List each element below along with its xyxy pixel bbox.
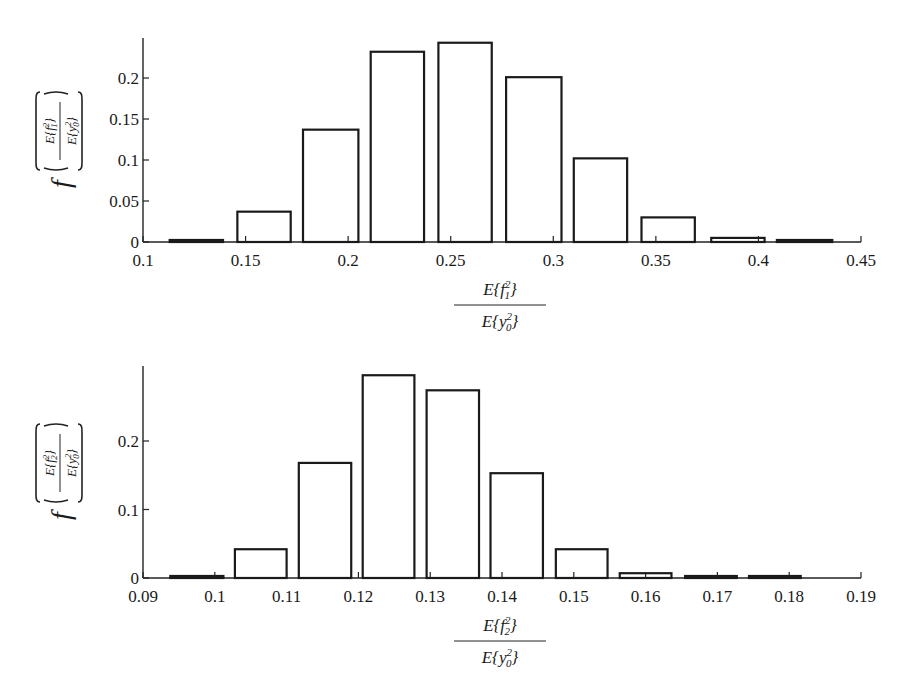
histogram-bar: [363, 375, 415, 578]
histogram-bar: [641, 217, 694, 242]
y-label-numerator: E{f21}: [41, 117, 59, 145]
y-tick-label: 0.05: [109, 192, 139, 211]
histogram-bar: [303, 130, 358, 242]
y-tick-label: 0.15: [109, 110, 139, 129]
histogram-bar: [777, 240, 832, 242]
x-tick-label: 0.14: [487, 587, 517, 606]
histogram-bar: [574, 158, 627, 242]
y-label-denominator: E{y20}: [63, 448, 81, 478]
x-tick-label: 0.45: [846, 251, 876, 270]
x-tick-label: 0.35: [641, 251, 671, 270]
histogram-bar: [235, 549, 287, 578]
x-tick-label: 0.25: [436, 251, 466, 270]
x-tick-label: 0.1: [132, 251, 153, 270]
x-tick-label: 0.17: [703, 587, 733, 606]
histogram-bar: [749, 576, 801, 578]
histogram-bar: [371, 52, 424, 242]
x-label-denominator: E{y20}: [481, 646, 519, 669]
histogram-f2: 0.090.10.110.120.130.140.150.160.170.180…: [36, 366, 876, 669]
histogram-bar: [170, 576, 223, 578]
histogram-bar: [438, 43, 491, 242]
histogram-bar: [506, 77, 561, 242]
histogram-bar: [711, 238, 764, 242]
histogram-bar: [556, 549, 608, 578]
histogram-bar: [427, 390, 479, 578]
x-label-denominator: E{y20}: [481, 310, 519, 333]
x-tick-label: 0.09: [128, 587, 158, 606]
x-tick-label: 0.1: [204, 587, 225, 606]
x-tick-label: 0.15: [559, 587, 589, 606]
x-label-numerator: E{f21}: [482, 278, 517, 301]
y-tick-label: 0.1: [118, 151, 139, 170]
x-tick-label: 0.15: [231, 251, 261, 270]
x-tick-label: 0.11: [272, 587, 301, 606]
y-tick-label: 0.2: [118, 69, 139, 88]
x-tick-label: 0.12: [344, 587, 374, 606]
x-axis-label: E{f21}E{y20}: [454, 278, 546, 333]
y-tick-label: 0: [131, 569, 140, 588]
x-tick-label: 0.4: [748, 251, 770, 270]
histogram-bar: [685, 576, 737, 578]
histogram-bar: [299, 463, 351, 578]
histogram-f1: 0.10.150.20.250.30.350.40.4500.050.10.15…: [36, 38, 876, 333]
histogram-bar: [491, 473, 543, 578]
x-label-numerator: E{f22}: [482, 614, 517, 637]
y-axis-label: fE{f21}E{y20}: [36, 92, 82, 188]
y-tick-label: 0.1: [118, 501, 139, 520]
y-axis-label: fE{f22}E{y20}: [36, 424, 82, 520]
x-tick-label: 0.18: [774, 587, 804, 606]
x-tick-label: 0.13: [415, 587, 445, 606]
x-tick-label: 0.16: [631, 587, 661, 606]
y-label-f: f: [45, 177, 76, 188]
x-tick-label: 0.3: [543, 251, 564, 270]
histogram-bar: [170, 240, 223, 242]
y-label-numerator: E{f22}: [41, 449, 59, 477]
y-tick-label: 0: [131, 233, 140, 252]
y-label-f: f: [45, 509, 76, 520]
x-axis-label: E{f22}E{y20}: [454, 614, 546, 669]
y-tick-label: 0.2: [118, 432, 139, 451]
figure: 0.10.150.20.250.30.350.40.4500.050.10.15…: [0, 0, 911, 694]
y-label-denominator: E{y20}: [63, 116, 81, 146]
x-tick-label: 0.2: [338, 251, 359, 270]
x-tick-label: 0.19: [846, 587, 876, 606]
